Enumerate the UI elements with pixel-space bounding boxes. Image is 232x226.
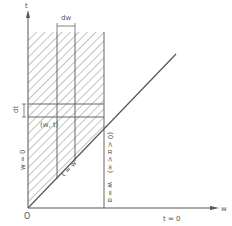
w-zero-label: w = 0 [19,150,27,171]
dt-label: dt [12,106,20,113]
w-axis-label: w [221,205,227,213]
horizontal-axis [28,206,219,210]
t-axis-arrow-icon [26,10,30,18]
diagram-canvas: t w O dw dt (w, t) w = 0 t = 0 t = w w =… [0,0,232,226]
t-zero-label: t = 0 [163,215,181,223]
w-axis-arrow-icon [210,206,219,210]
shaded-region [28,32,104,208]
point-label: (w, t) [40,121,59,129]
dt-dimension [22,104,26,117]
dw-dimension [57,23,75,32]
alpha-range-label: (0 < α < ∞) [106,132,114,173]
w-eq-alpha-label: w = α [106,182,114,203]
t-axis-label: t [25,2,28,10]
dw-label: dw [61,14,71,22]
origin-label: O [24,212,30,221]
